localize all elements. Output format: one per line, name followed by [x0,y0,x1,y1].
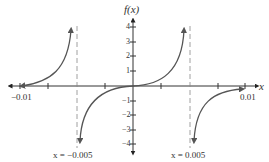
curve-left-branch [22,30,71,86]
y-tick-4: 4 [126,22,130,31]
asymptote-label-right: x = 0.005 [171,150,205,160]
y-axis-label: f(x) [124,3,139,15]
graph-canvas [0,0,269,162]
y-tick-neg3: −3 [122,125,131,134]
y-tick-neg4: −4 [122,139,131,148]
x-tick-label-max: 0.01 [240,92,256,102]
y-tick-1: 1 [126,66,130,75]
y-tick-3: 3 [126,37,130,46]
y-tick-neg2: −2 [122,110,131,119]
y-tick-neg1: −1 [122,96,131,105]
y-tick-2: 2 [126,51,130,60]
asymptote-label-left: x = −0.005 [53,150,92,160]
curve-right-branch [194,89,242,141]
x-axis-label: x [259,80,264,92]
x-tick-label-min: −0.01 [11,92,32,102]
